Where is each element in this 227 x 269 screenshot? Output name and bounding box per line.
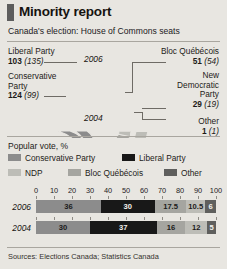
bar-segment-value: 5 bbox=[207, 221, 216, 234]
bar-tick bbox=[198, 217, 199, 220]
label-conservative-seats-2006: 124 bbox=[8, 90, 22, 100]
legend-swatch-ndp bbox=[8, 169, 21, 176]
bar-tick bbox=[180, 217, 181, 220]
bar-tick bbox=[144, 196, 145, 199]
axis-tick-label: 10 bbox=[46, 186, 62, 195]
axis-tick-label: 90 bbox=[190, 186, 206, 195]
label-conservative-seats-2004: (99) bbox=[24, 90, 39, 100]
bar-tick bbox=[180, 196, 181, 199]
label-other-seats-2004: (1) bbox=[209, 126, 219, 136]
leader-line-ndp bbox=[142, 108, 166, 109]
leader-line-bloc-h bbox=[132, 62, 166, 63]
bar-tick bbox=[90, 196, 91, 199]
bar-tick bbox=[72, 217, 73, 220]
page-subtitle: Canada's election: House of Commons seat… bbox=[8, 26, 180, 36]
legend-label-ndp: NDP bbox=[25, 168, 43, 178]
bar-tick bbox=[216, 217, 217, 220]
arc-segment-ndp bbox=[134, 131, 148, 138]
bar-tick bbox=[216, 196, 217, 199]
label-bloc-name: Bloc Québécois bbox=[161, 46, 219, 56]
bar-tick bbox=[72, 196, 73, 199]
bar-tick bbox=[108, 217, 109, 220]
leader-line-liberal bbox=[44, 62, 77, 63]
label-ndp-seats-2004: (19) bbox=[204, 99, 219, 109]
bar-tick bbox=[126, 217, 127, 220]
label-ndp-name2: Democratic bbox=[177, 80, 219, 90]
legend-label-conservative: Conservative Party bbox=[25, 153, 95, 163]
label-bloc-seats-2004: (54) bbox=[204, 56, 219, 66]
red-tab-mark bbox=[7, 4, 14, 21]
arc-year-inner: 2004 bbox=[84, 113, 103, 123]
label-liberal-name: Liberal Party bbox=[8, 46, 55, 56]
page-title: Minority report bbox=[19, 4, 111, 19]
bar-tick bbox=[90, 217, 91, 220]
leader-line-other-h bbox=[142, 119, 166, 120]
bar-tick bbox=[198, 196, 199, 199]
bar-tick bbox=[126, 196, 127, 199]
bar-tick bbox=[108, 196, 109, 199]
source-note: Sources: Elections Canada; Statistics Ca… bbox=[8, 252, 159, 261]
divider-bottom bbox=[7, 247, 220, 248]
leader-line-other-v bbox=[142, 112, 143, 120]
bar-segment-value: 30 bbox=[36, 221, 90, 234]
legend-swatch-liberal bbox=[122, 154, 135, 161]
axis-tick-label: 100 bbox=[208, 186, 224, 195]
bar-segment-value: 30 bbox=[101, 200, 155, 213]
bar-segment-value: 37 bbox=[90, 221, 157, 234]
bar-tick bbox=[54, 196, 55, 199]
bar-tick bbox=[36, 217, 37, 220]
label-liberal-seats-2004: (135) bbox=[24, 56, 43, 66]
popular-vote-title: Popular vote, % bbox=[8, 141, 68, 151]
axis-tick-label: 50 bbox=[118, 186, 134, 195]
label-ndp-name3: Party bbox=[200, 89, 219, 99]
label-other-name: Other bbox=[198, 116, 219, 126]
label-ndp-seats-2006: 29 bbox=[193, 99, 202, 109]
axis-tick-label: 60 bbox=[136, 186, 152, 195]
leader-line-other-tip bbox=[134, 112, 143, 113]
legend-swatch-conservative bbox=[8, 154, 21, 161]
bar-segment-value: 10.5 bbox=[186, 200, 205, 213]
leader-line-bloc-tip bbox=[125, 92, 133, 93]
bar-segment-value: 16 bbox=[157, 221, 186, 234]
bar-segment-value: 17.5 bbox=[155, 200, 187, 213]
bar-segment-value: 12 bbox=[185, 221, 207, 234]
label-ndp: New Democratic Party 29 (19) bbox=[139, 71, 219, 109]
bar-segment-value: 6 bbox=[205, 200, 216, 213]
axis-tick-label: 40 bbox=[100, 186, 116, 195]
arc-year-outer: 2006 bbox=[84, 54, 103, 64]
label-bloc-seats-2006: 51 bbox=[193, 56, 202, 66]
leader-line-bloc-v bbox=[132, 62, 133, 92]
axis-tick-label: 0 bbox=[28, 186, 44, 195]
legend-swatch-other bbox=[164, 169, 177, 176]
axis-tick-label: 70 bbox=[154, 186, 170, 195]
bar-row-label: 2004 bbox=[3, 223, 31, 233]
divider-middle bbox=[7, 136, 220, 137]
bar-tick bbox=[54, 217, 55, 220]
bar-tick bbox=[162, 196, 163, 199]
bar-tick bbox=[162, 217, 163, 220]
axis-tick-label: 20 bbox=[64, 186, 80, 195]
label-other-seats-2006: 1 bbox=[202, 126, 207, 136]
label-liberal-seats-2006: 103 bbox=[8, 56, 22, 66]
bar-row-label: 2006 bbox=[3, 202, 31, 212]
label-conservative-name1: Conservative bbox=[8, 71, 56, 81]
label-bloc: Bloc Québécois 51 (54) bbox=[129, 47, 219, 66]
label-conservative-name2: Party bbox=[8, 81, 27, 91]
bar-tick bbox=[36, 196, 37, 199]
axis-tick-label: 30 bbox=[82, 186, 98, 195]
legend-label-bloc: Bloc Québécois bbox=[85, 168, 143, 178]
bar-tick bbox=[144, 217, 145, 220]
axis-tick-label: 80 bbox=[172, 186, 188, 195]
label-ndp-name1: New bbox=[202, 70, 219, 80]
label-liberal: Liberal Party 103 (135) bbox=[8, 47, 55, 66]
legend-swatch-bloc bbox=[68, 169, 81, 176]
infographic-root: Minority report Canada's election: House… bbox=[0, 0, 227, 269]
legend-label-other: Other bbox=[181, 168, 202, 178]
leader-line-conservative bbox=[44, 96, 66, 97]
bar-segment-value: 36 bbox=[36, 200, 101, 213]
legend-label-liberal: Liberal Party bbox=[139, 153, 186, 163]
